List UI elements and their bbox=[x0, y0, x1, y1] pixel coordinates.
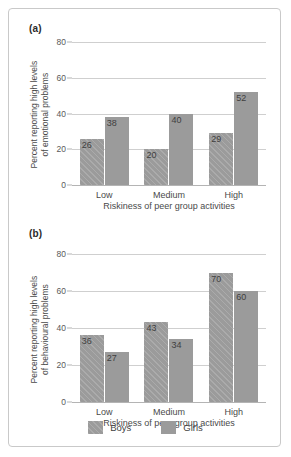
y-axis-title-b: Percent reporting high levels of behavio… bbox=[29, 255, 50, 405]
bar-value-label: 29 bbox=[211, 135, 221, 144]
figure-frame: (a) Percent reporting high levels of emo… bbox=[8, 8, 281, 447]
legend-label-boys: Boys bbox=[110, 422, 131, 433]
bar-value-label: 40 bbox=[171, 116, 181, 125]
bar-b-low-girls: 27 bbox=[105, 352, 129, 402]
y-tick-label-b-20: 20 bbox=[57, 360, 66, 370]
gridline-a-0 bbox=[72, 185, 266, 186]
bar-a-low-boys: 26 bbox=[80, 139, 104, 185]
bar-value-label: 43 bbox=[146, 324, 156, 333]
legend-item-girls[interactable]: Girls bbox=[161, 421, 203, 434]
y-tick-label-b-0: 0 bbox=[61, 397, 66, 407]
bar-group-a-low: 2638Low bbox=[72, 42, 137, 185]
bar-value-label: 70 bbox=[211, 275, 221, 284]
plot-area-a: 0204060802638Low2040Medium2952High bbox=[72, 42, 266, 185]
legend-swatch-girls-icon bbox=[161, 421, 176, 434]
x-tick-label-a-low: Low bbox=[96, 190, 113, 200]
bar-value-label: 20 bbox=[146, 151, 156, 160]
legend-label-girls: Girls bbox=[183, 422, 203, 433]
bar-value-label: 38 bbox=[107, 119, 117, 128]
y-axis-title-b-line1: Percent reporting high levels bbox=[29, 255, 40, 405]
bar-group-a-high: 2952High bbox=[201, 42, 266, 185]
bar-group-b-high: 7060High bbox=[201, 254, 266, 402]
legend-item-boys[interactable]: Boys bbox=[88, 421, 131, 434]
y-tick-label-a-40: 40 bbox=[57, 109, 66, 119]
bar-a-medium-boys: 20 bbox=[144, 149, 168, 185]
bar-value-label: 52 bbox=[236, 94, 246, 103]
bar-value-label: 60 bbox=[236, 293, 246, 302]
bar-group-b-medium: 4334Medium bbox=[137, 254, 202, 402]
y-tick-label-a-80: 80 bbox=[57, 37, 66, 47]
bar-value-label: 36 bbox=[82, 337, 92, 346]
bar-b-high-boys: 70 bbox=[209, 273, 233, 403]
bar-value-label: 26 bbox=[82, 141, 92, 150]
bar-value-label: 27 bbox=[107, 354, 117, 363]
chart-panel-a: (a) Percent reporting high levels of emo… bbox=[9, 9, 282, 222]
chart-panel-b: (b) Percent reporting high levels of beh… bbox=[9, 214, 282, 448]
gridline-b-0 bbox=[72, 402, 266, 403]
x-tick-label-b-low: Low bbox=[96, 407, 113, 417]
y-tick-label-a-60: 60 bbox=[57, 73, 66, 83]
y-tick-label-b-80: 80 bbox=[57, 249, 66, 259]
panel-label-b: (b) bbox=[29, 228, 42, 239]
y-axis-title-a-line1: Percent reporting high levels bbox=[29, 40, 40, 190]
y-tick-label-b-40: 40 bbox=[57, 323, 66, 333]
x-tick-label-a-high: High bbox=[224, 190, 243, 200]
bar-b-high-girls: 60 bbox=[234, 291, 258, 402]
x-tick-label-b-medium: Medium bbox=[153, 407, 185, 417]
bar-b-medium-girls: 34 bbox=[169, 339, 193, 402]
x-tick-label-a-medium: Medium bbox=[153, 190, 185, 200]
y-tick-label-b-60: 60 bbox=[57, 286, 66, 296]
y-axis-title-a: Percent reporting high levels of emotion… bbox=[29, 40, 50, 190]
bar-b-low-boys: 36 bbox=[80, 335, 104, 402]
bar-a-high-boys: 29 bbox=[209, 133, 233, 185]
bar-group-a-medium: 2040Medium bbox=[137, 42, 202, 185]
bar-group-b-low: 3627Low bbox=[72, 254, 137, 402]
legend-swatch-boys-icon bbox=[88, 421, 103, 434]
plot-area-b: 0204060803627Low4334Medium7060High bbox=[72, 254, 266, 402]
y-tick-label-a-0: 0 bbox=[61, 180, 66, 190]
bar-a-medium-girls: 40 bbox=[169, 114, 193, 186]
bar-a-high-girls: 52 bbox=[234, 92, 258, 185]
bar-value-label: 34 bbox=[171, 341, 181, 350]
x-tick-label-b-high: High bbox=[224, 407, 243, 417]
bar-a-low-girls: 38 bbox=[105, 117, 129, 185]
x-axis-title-a: Riskiness of peer group activities bbox=[72, 201, 266, 211]
chart-legend: BoysGirls bbox=[9, 421, 282, 434]
y-tick-label-a-20: 20 bbox=[57, 144, 66, 154]
y-axis-title-b-line2: of behavioural problems bbox=[40, 255, 51, 405]
y-axis-title-a-line2: of emotional problems bbox=[40, 40, 51, 190]
bar-b-medium-boys: 43 bbox=[144, 322, 168, 402]
panel-label-a: (a) bbox=[29, 23, 42, 34]
